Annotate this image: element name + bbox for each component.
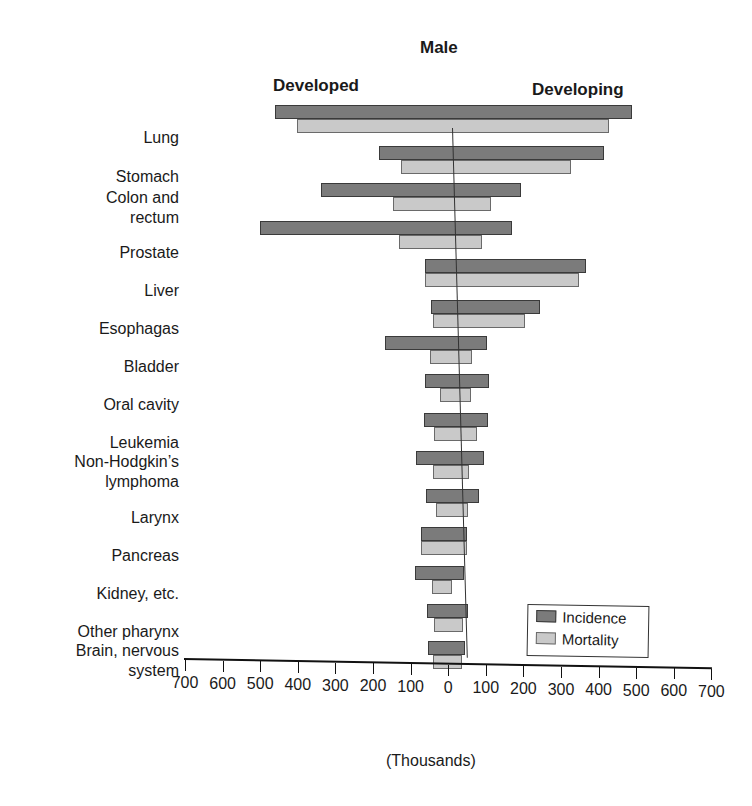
x-tick-label: 100 [472,679,499,697]
x-tick [448,665,449,676]
incidence-swatch [536,610,556,622]
legend-label: Incidence [562,608,627,626]
incidence-bar [260,221,512,235]
mortality-bar [433,465,469,479]
x-tick [298,662,299,673]
incidence-bar [427,604,468,618]
incidence-bar [415,566,464,580]
x-tick-label: 500 [623,682,650,700]
category-label: Pancreas [111,546,179,565]
category-label: Colon and [106,188,179,207]
x-tick [335,663,336,674]
category-label: Liver [144,281,179,300]
category-label: Brain, nervous [76,641,179,660]
category-label: Leukemia [110,433,179,452]
x-tick [185,660,186,671]
incidence-bar [425,259,587,273]
incidence-bar [275,105,632,119]
x-tick [599,667,600,678]
mortality-bar [432,580,453,594]
developed-label: Developed [273,76,359,96]
x-tick-label: 100 [397,678,424,696]
category-label: Other pharynx [78,622,179,641]
incidence-bar [321,183,520,197]
developing-label: Developing [532,80,624,100]
x-tick-label: 600 [209,675,236,693]
x-tick-label: 700 [172,674,199,692]
mortality-bar [401,160,570,174]
mortality-bar [430,350,471,364]
x-tick [486,665,487,676]
mortality-bar [434,618,462,632]
x-tick [260,661,261,672]
mortality-bar [425,273,579,287]
category-label: Stomach [116,167,179,186]
legend-item-mortality: Mortality [528,627,648,651]
mortality-bar [399,235,482,249]
category-label: Non-Hodgkin’s [74,452,179,471]
incidence-bar [421,527,466,541]
category-label: Bladder [124,357,179,376]
x-tick-label: 200 [360,677,387,695]
x-tick [711,669,712,680]
x-tick-label: 700 [698,683,725,701]
incidence-bar [425,374,489,388]
incidence-bar [428,641,466,655]
category-label: Esophagas [99,319,179,338]
x-tick-label: 500 [247,675,274,693]
category-label: Kidney, etc. [97,584,179,603]
x-tick-label: 600 [660,682,687,700]
x-tick [636,668,637,679]
x-tick-label: 200 [510,680,537,698]
x-tick-label: 300 [322,677,349,695]
mortality-bar [433,314,525,328]
x-tick [674,668,675,679]
legend: Incidence Mortality [527,604,650,658]
x-tick [561,667,562,678]
x-tick-label: 0 [444,679,453,697]
category-label: Prostate [119,243,179,262]
incidence-bar [379,146,605,160]
incidence-bar [431,300,540,314]
legend-label: Mortality [562,630,619,648]
mortality-bar [434,427,477,441]
mortality-bar [440,388,470,402]
chart-title: Male [420,38,458,58]
category-label: Oral cavity [103,395,179,414]
legend-item-incidence: Incidence [528,605,648,629]
x-tick [411,664,412,675]
x-tick-label: 300 [548,681,575,699]
mortality-bar [297,119,609,133]
category-label: rectum [130,208,179,227]
mortality-bar [393,197,491,211]
category-label: Larynx [131,508,179,527]
incidence-bar [416,451,484,465]
incidence-bar [385,336,487,350]
x-tick [523,666,524,677]
category-label: Lung [143,128,179,147]
x-axis-label: (Thousands) [386,752,476,770]
mortality-swatch [536,632,556,644]
incidence-bar [424,413,488,427]
incidence-bar [426,489,479,503]
mortality-bar [421,541,466,555]
x-tick-label: 400 [585,681,612,699]
x-tick [373,663,374,674]
category-label: lymphoma [105,472,179,491]
x-tick [223,661,224,672]
x-tick-label: 400 [284,676,311,694]
